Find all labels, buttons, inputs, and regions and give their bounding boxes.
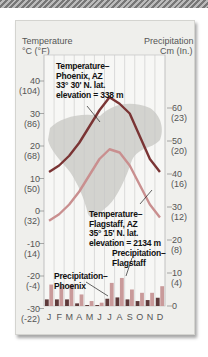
left-tick-sublabel: (104) xyxy=(16,86,40,96)
left-tick-sublabel: (86) xyxy=(16,119,40,129)
right-tick-label: 50 xyxy=(172,136,182,146)
left-tick-label: 30 xyxy=(18,109,40,119)
phoenix-precip-bar xyxy=(75,303,79,306)
left-tick-sublabel: (50) xyxy=(16,184,40,194)
phoenix-precip-bar xyxy=(85,305,89,306)
right-tick-label: 10 xyxy=(172,268,182,278)
left-tick-label: 0 xyxy=(18,206,40,216)
flagstaff-precip-bar xyxy=(80,294,84,306)
phoenix-precip-bar xyxy=(65,299,69,306)
month-label: F xyxy=(55,312,63,322)
phoenix-precip-bar xyxy=(55,299,59,306)
left-tick-sublabel: (-22) xyxy=(16,314,40,324)
month-label: M xyxy=(65,312,73,322)
left-tick-label: -30 xyxy=(18,304,40,314)
right-tick-sublabel: (4) xyxy=(171,278,182,288)
phoenix-precip-bar xyxy=(115,297,119,306)
month-label: J xyxy=(45,312,53,322)
flagstaff-precip-bar xyxy=(49,285,53,306)
flagstaff-precip-bar xyxy=(130,290,134,307)
month-label: S xyxy=(126,312,134,322)
phoenix-precip-bar xyxy=(136,301,140,306)
right-tick-label: 40 xyxy=(172,169,182,179)
flagstaff-precip-bar xyxy=(110,283,114,306)
month-label: J xyxy=(95,312,103,322)
left-tick-label: -10 xyxy=(18,239,40,249)
right-tick-label: 20 xyxy=(172,235,182,245)
flagstaff-precip-bar xyxy=(120,278,124,306)
phoenix-precip-bar xyxy=(126,299,130,306)
left-tick-sublabel: (32) xyxy=(16,216,40,226)
annotation-phoenix-temperature: Temperature– Phoenix, AZ 33° 30' N. lat.… xyxy=(56,62,123,100)
month-label: N xyxy=(146,312,154,322)
month-label: A xyxy=(75,312,83,322)
flagstaff-precip-bar xyxy=(160,286,164,306)
left-tick-label: -20 xyxy=(18,271,40,281)
month-label: D xyxy=(156,312,164,322)
month-label: M xyxy=(85,312,93,322)
left-tick-sublabel: (-4) xyxy=(16,281,40,291)
annotation-flagstaff-precipitation: Precipitation– Flagstaff xyxy=(112,249,165,268)
month-label: A xyxy=(116,312,124,322)
phoenix-precip-bar xyxy=(105,299,109,306)
left-tick-label: 20 xyxy=(18,141,40,151)
right-tick-label: 60 xyxy=(172,103,182,113)
right-tick-sublabel: (16) xyxy=(171,179,187,189)
right-tick-label: 0 xyxy=(172,301,177,311)
right-tick-sublabel: (12) xyxy=(171,212,187,222)
month-label: O xyxy=(136,312,144,322)
left-tick-sublabel: (68) xyxy=(16,151,40,161)
phoenix-precip-bar xyxy=(156,298,160,306)
right-tick-sublabel: (20) xyxy=(171,146,187,156)
phoenix-precip-bar xyxy=(95,305,99,306)
left-tick-label: 40 xyxy=(18,76,40,86)
month-label: J xyxy=(106,312,114,322)
flagstaff-precip-bar xyxy=(90,301,94,306)
left-tick-sublabel: (14) xyxy=(16,249,40,259)
flagstaff-precip-bar xyxy=(150,293,154,306)
annotation-phoenix-precipitation: Precipitation– Phoenix xyxy=(54,272,107,291)
flagstaff-precip-bar xyxy=(100,303,104,306)
right-tick-sublabel: (23) xyxy=(171,113,187,123)
phoenix-precip-bar xyxy=(45,299,49,306)
right-tick-label: 30 xyxy=(172,202,182,212)
right-tick-sublabel: (8) xyxy=(171,245,182,255)
flagstaff-precip-bar xyxy=(140,293,144,306)
phoenix-precip-bar xyxy=(146,300,150,306)
left-tick-label: 10 xyxy=(18,174,40,184)
annotation-flagstaff-temperature: Temperature– Flagstaff, AZ 35° 15' N. la… xyxy=(89,210,161,248)
